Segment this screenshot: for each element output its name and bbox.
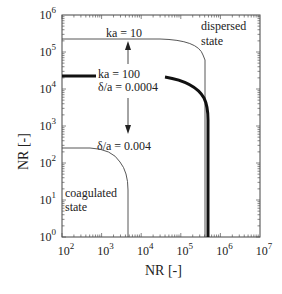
label-ka-100: ka = 100 <box>98 67 140 81</box>
tick-label: 102 <box>40 153 57 170</box>
chart: ka = 10 ka = 100 δ/a = 0.0004 δ/a = 0.00… <box>0 0 282 294</box>
tick-label: 103 <box>97 241 114 258</box>
tick-label: 101 <box>40 190 57 207</box>
tick-label: 106 <box>40 5 57 22</box>
label-dispersed-state: state <box>201 34 223 48</box>
y-tick-labels: 100101102103104105106 <box>40 5 57 244</box>
label-coagulated-state: state <box>65 200 87 214</box>
tick-label: 102 <box>58 241 75 258</box>
label-delta-0004: δ/a = 0.004 <box>97 139 151 153</box>
tick-label: 104 <box>40 79 57 96</box>
y-axis-title: NR [-] <box>16 133 31 170</box>
tick-label: 103 <box>40 116 57 133</box>
x-axis-title: NR [-] <box>145 263 182 278</box>
label-ka-10: ka = 10 <box>106 26 142 40</box>
tick-label: 105 <box>40 42 57 59</box>
tick-label: 100 <box>40 227 57 244</box>
label-dispersed: dispersed <box>201 19 246 33</box>
label-coagulated: coagulated <box>65 186 117 200</box>
plot-frame <box>62 15 260 237</box>
label-delta-00004: δ/a = 0.0004 <box>98 80 158 94</box>
tick-label: 107 <box>256 241 273 258</box>
x-tick-labels: 102103104105106107 <box>58 241 273 258</box>
arrow-up-icon <box>125 41 131 64</box>
tick-label: 105 <box>177 241 194 258</box>
tick-label: 104 <box>137 241 154 258</box>
arrow-down-icon <box>125 98 131 134</box>
axis-ticks <box>62 15 260 237</box>
tick-label: 106 <box>216 241 233 258</box>
